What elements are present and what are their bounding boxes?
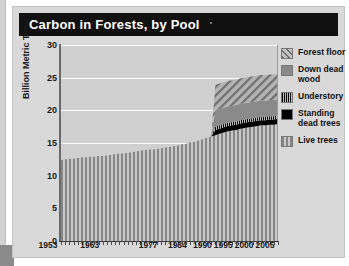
y-axis-tick-label: 10 (35, 172, 57, 181)
legend-label: Standingdead trees (298, 108, 349, 128)
chart-card: Carbon in Forests, by Pool 051015202530 … (12, 6, 345, 258)
plot-top-rule (61, 45, 278, 46)
x-axis-tick-label: 1995 (214, 240, 233, 250)
plot-right-edge (277, 45, 278, 241)
x-axis-tick-labels: 19531963197719841990199520002005 (0, 240, 349, 254)
y-axis-tick-label: 25 (35, 74, 57, 83)
x-axis-tick-label: 1963 (80, 240, 99, 250)
plot-area (61, 45, 278, 241)
x-axis-tick-label: 2005 (256, 240, 275, 250)
chart-title-bar: Carbon in Forests, by Pool (19, 13, 338, 36)
series-live-trees (61, 124, 278, 241)
legend-swatch-solid-black (281, 109, 293, 120)
legend-label: Live trees (298, 135, 349, 145)
y-axis-tick-label: 30 (35, 41, 57, 50)
legend-item[interactable]: Live trees (281, 136, 349, 152)
legend-swatch-narrow-vertical-ticks (281, 92, 293, 103)
legend-swatch-diagonal-hatch (281, 48, 293, 59)
chart-legend: Forest floorDown deadwoodUnderstoryStand… (281, 48, 349, 156)
y-axis-tick-label: 5 (35, 204, 57, 213)
page-left-rail (0, 0, 6, 266)
x-axis-tick-label: 2000 (235, 240, 254, 250)
legend-label: Down deadwood (298, 64, 349, 84)
legend-item[interactable]: Forest floor (281, 48, 349, 64)
legend-swatch-vertical-stripes (281, 136, 293, 147)
x-axis-tick-label: 1977 (139, 240, 158, 250)
legend-label: Understory (298, 91, 349, 101)
stacked-area-series (61, 45, 278, 241)
legend-item[interactable]: Down deadwood (281, 65, 349, 91)
legend-item[interactable]: Standingdead trees (281, 109, 349, 135)
screenshot-root: Carbon in Forests, by Pool 051015202530 … (0, 0, 349, 266)
x-axis-tick-label: 1990 (193, 240, 212, 250)
y-axis-tick-label: 15 (35, 139, 57, 148)
legend-swatch-solid-gray (281, 65, 293, 76)
title-speck (210, 22, 212, 24)
x-axis-tick-label: 1953 (39, 240, 58, 250)
y-axis-tick-label: 20 (35, 106, 57, 115)
x-axis-tick-label: 1984 (168, 240, 187, 250)
legend-item[interactable]: Understory (281, 92, 349, 108)
y-axis-tick-labels: 051015202530 (31, 7, 57, 266)
y-axis-line (59, 44, 61, 242)
y-axis-title: Billion Metric Tons (21, 19, 31, 99)
legend-label: Forest floor (298, 47, 349, 57)
